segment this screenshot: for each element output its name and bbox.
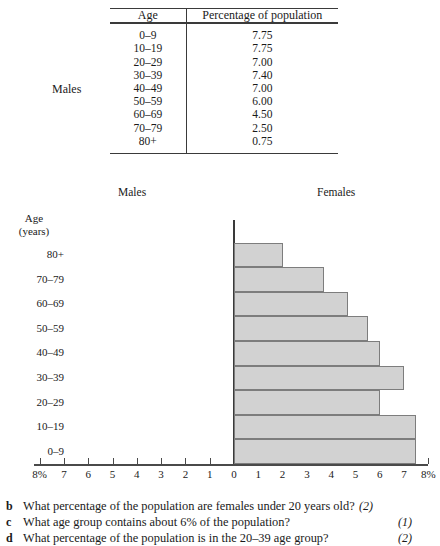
question-text: What percentage of the population are fe…	[23, 498, 355, 514]
table-cell-percentage: 4.50	[186, 108, 338, 121]
x-axis-tick-label: 4	[124, 468, 150, 480]
y-axis-category-label: 20–29	[0, 396, 64, 408]
y-axis-category-label: 70–79	[0, 273, 64, 285]
bar-females	[234, 316, 368, 341]
x-axis-tick-label: 3	[294, 468, 320, 480]
bar-females	[234, 366, 404, 391]
table-body: 0–97.7510–197.7520–297.0030–397.4040–497…	[110, 24, 338, 154]
y-axis-category-label: 80+	[0, 248, 64, 260]
table-row: 60–694.50	[110, 108, 338, 121]
population-table-block: Age Percentage of population 0–97.7510–1…	[110, 8, 338, 154]
table-cell-percentage: 7.00	[186, 82, 338, 95]
x-axis-tick	[88, 458, 89, 464]
x-axis-tick	[137, 458, 138, 464]
table-row: 20–297.00	[110, 56, 338, 69]
horizontal-axis	[34, 464, 428, 466]
table-cell-percentage: 2.50	[186, 122, 338, 135]
table-cell-age: 60–69	[110, 108, 186, 121]
plot-area: 8%7654321012345678%0–910–1920–2930–3940–…	[0, 180, 440, 490]
x-axis-tick-label: 3	[148, 468, 174, 480]
question-marks: (2)	[359, 498, 373, 514]
question-row: dWhat percentage of the population is in…	[0, 530, 440, 546]
bar-females	[234, 341, 380, 366]
question-letter: d	[6, 530, 13, 546]
table-cell-percentage: 7.75	[186, 42, 338, 55]
x-axis-tick	[185, 458, 186, 464]
table-cell-age: 70–79	[110, 122, 186, 135]
y-axis-category-label: 40–49	[0, 346, 64, 358]
question-row: bWhat percentage of the population are f…	[0, 498, 440, 514]
table-cell-age: 20–29	[110, 56, 186, 69]
table-row: 30–397.40	[110, 69, 338, 82]
x-axis-tick-label: 2	[270, 468, 296, 480]
table-cell-percentage: 7.00	[186, 56, 338, 69]
x-axis-tick-label: 1	[197, 468, 223, 480]
x-axis-tick-label: 1	[245, 468, 271, 480]
table-cell-age: 0–9	[110, 24, 186, 43]
table-cell-percentage: 7.40	[186, 69, 338, 82]
table-cell-percentage: 6.00	[186, 95, 338, 108]
x-axis-tick-label: 5	[100, 468, 126, 480]
question-text: What age group contains about 6% of the …	[23, 514, 290, 530]
question-letter: b	[6, 498, 13, 514]
bar-females	[234, 390, 380, 415]
x-axis-tick-label: 6	[75, 468, 101, 480]
bottom-rule-right	[186, 154, 338, 155]
table-header-age: Age	[110, 9, 186, 23]
questions-list: bWhat percentage of the population are f…	[0, 498, 440, 546]
table-cell-age: 10–19	[110, 42, 186, 55]
x-axis-tick	[428, 458, 429, 464]
x-axis-tick	[64, 458, 65, 464]
question-row: cWhat age group contains about 6% of the…	[0, 514, 440, 530]
x-axis-tick	[113, 458, 114, 464]
x-axis-tick-label: 8%	[415, 468, 440, 480]
table-row: 10–197.75	[110, 42, 338, 55]
question-marks: (1)	[398, 514, 412, 530]
bar-females	[234, 243, 283, 268]
y-axis-category-label: 10–19	[0, 420, 64, 432]
table-cell-age: 80+	[110, 135, 186, 148]
x-axis-tick-label: 7	[51, 468, 77, 480]
table-row: 50–596.00	[110, 95, 338, 108]
question-letter: c	[6, 514, 11, 530]
question-marks: (2)	[398, 530, 412, 546]
x-axis-tick	[161, 458, 162, 464]
population-table: Age Percentage of population 0–97.7510–1…	[110, 8, 338, 154]
table-head: Age Percentage of population	[110, 9, 338, 24]
table-cell-age: 50–59	[110, 95, 186, 108]
bottom-rule-left	[110, 154, 186, 155]
x-axis-tick	[210, 458, 211, 464]
x-axis-tick-label: 5	[343, 468, 369, 480]
table-cell-age: 30–39	[110, 69, 186, 82]
x-axis-tick-label: 0	[221, 468, 247, 480]
table-row: 80+0.75	[110, 135, 338, 148]
table-header-row: Age Percentage of population	[110, 9, 338, 23]
table-side-label-males: Males	[52, 82, 81, 97]
x-axis-tick-label: 6	[367, 468, 393, 480]
table-bottom-rule	[110, 154, 338, 155]
bar-females	[234, 292, 348, 317]
x-axis-tick	[40, 458, 41, 464]
table-cell-percentage: 0.75	[186, 135, 338, 148]
table-row: 40–497.00	[110, 82, 338, 95]
population-pyramid-chart: Males Females Age (years) 8%765432101234…	[0, 180, 440, 490]
question-text: What percentage of the population is in …	[23, 530, 329, 546]
bar-females	[234, 439, 416, 464]
x-axis-tick-label: 4	[318, 468, 344, 480]
table-row: 0–97.75	[110, 24, 338, 43]
table-cell-percentage: 7.75	[186, 24, 338, 43]
x-axis-tick-label: 7	[391, 468, 417, 480]
y-axis-category-label: 0–9	[0, 445, 64, 457]
bar-females	[234, 415, 416, 440]
x-axis-tick-label: 2	[172, 468, 198, 480]
y-axis-category-label: 50–59	[0, 322, 64, 334]
x-axis-tick-label: 8%	[27, 468, 53, 480]
table-header-percentage: Percentage of population	[186, 9, 338, 23]
table-cell-age: 40–49	[110, 82, 186, 95]
bar-females	[234, 267, 324, 292]
table-row: 70–792.50	[110, 122, 338, 135]
y-axis-category-label: 60–69	[0, 297, 64, 309]
y-axis-category-label: 30–39	[0, 371, 64, 383]
